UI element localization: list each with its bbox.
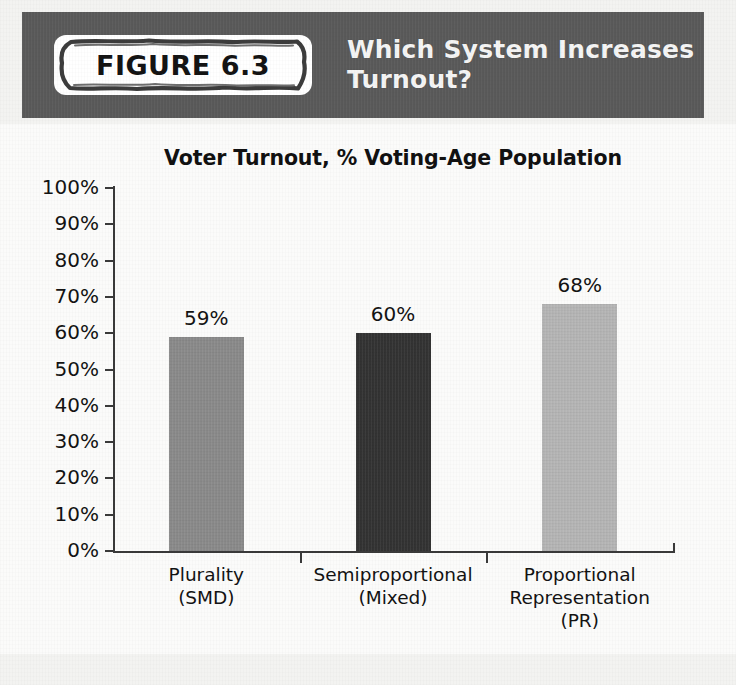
bar-2[interactable]: 60% bbox=[356, 333, 431, 551]
x-axis-line bbox=[113, 551, 675, 553]
y-axis-tick-label: 30% bbox=[0, 429, 99, 453]
category-label-3: ProportionalRepresentation(PR) bbox=[486, 564, 673, 633]
category-label-line: (PR) bbox=[486, 610, 673, 633]
y-axis-tick-label: 60% bbox=[0, 320, 99, 344]
y-axis-tick-label: 50% bbox=[0, 357, 99, 381]
category-label-line: Plurality bbox=[113, 564, 300, 587]
figure-number-label: FIGURE 6.3 bbox=[96, 50, 270, 81]
bar-3[interactable]: 68% bbox=[542, 304, 617, 551]
category-label-1: Plurality(SMD) bbox=[113, 564, 300, 610]
y-axis-tick-label: 20% bbox=[0, 465, 99, 489]
figure-header-title: Which System Increases Turnout? bbox=[347, 35, 694, 95]
y-axis-tick-label: 10% bbox=[0, 502, 99, 526]
x-axis-tick-mark bbox=[300, 553, 302, 563]
bar-value-label: 68% bbox=[557, 273, 601, 297]
category-label-line: (Mixed) bbox=[300, 587, 487, 610]
bar-value-label: 59% bbox=[184, 306, 228, 330]
bar-value-label: 60% bbox=[371, 302, 415, 326]
category-label-line: Proportional bbox=[486, 564, 673, 587]
bar-1[interactable]: 59% bbox=[169, 337, 244, 551]
figure-header-band: FIGURE 6.3 Which System Increases Turnou… bbox=[22, 12, 704, 118]
chart-title: Voter Turnout, % Voting-Age Population bbox=[113, 146, 673, 170]
figure-header-title-line-2: Turnout? bbox=[347, 65, 694, 95]
y-axis-tick-label: 90% bbox=[0, 211, 99, 235]
y-axis-tick-label: 40% bbox=[0, 393, 99, 417]
category-label-line: (SMD) bbox=[113, 587, 300, 610]
plot-area: 59%60%68% bbox=[113, 188, 673, 551]
y-axis-tick-label: 0% bbox=[0, 538, 99, 562]
y-axis-tick-label: 70% bbox=[0, 284, 99, 308]
category-label-2: Semiproportional(Mixed) bbox=[300, 564, 487, 610]
chart-panel: Voter Turnout, % Voting-Age Population 1… bbox=[0, 124, 736, 654]
x-axis-tick-mark bbox=[486, 553, 488, 563]
y-axis-tick-label: 80% bbox=[0, 248, 99, 272]
y-axis-tick-label: 100% bbox=[0, 175, 99, 199]
category-label-line: Representation bbox=[486, 587, 673, 610]
figure-header-title-line-1: Which System Increases bbox=[347, 35, 694, 65]
category-label-line: Semiproportional bbox=[300, 564, 487, 587]
figure-number-badge: FIGURE 6.3 bbox=[54, 35, 312, 95]
x-axis-end-cap bbox=[673, 543, 675, 553]
